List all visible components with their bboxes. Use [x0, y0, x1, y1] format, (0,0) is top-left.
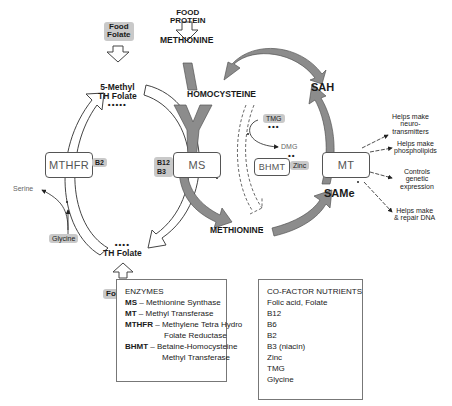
dmg-label: DMG [281, 143, 297, 150]
legend-enzyme-bhmt: BHMT – Betaine-Homocysteine [125, 341, 218, 352]
enzyme-bhmt-box: BHMT [254, 158, 290, 176]
legend-cofactor-item: B6 [267, 319, 354, 330]
legend-enzyme-mthfr: MTHFR – Methylene Tetra Hydro [125, 319, 218, 330]
ms-cofactor-chip: B12 B3 [154, 157, 173, 177]
output-phospholipids: Helps makephospholipids [394, 140, 437, 155]
legend-enzyme-ms: MS – Methionine Synthase [125, 297, 218, 308]
sah-to-homocysteine-arrow [224, 48, 326, 84]
methionine-bottom-label: METHIONINE [210, 226, 263, 235]
legend-cofactor-item: B2 [267, 330, 354, 341]
mthfr-cofactor-chip: B2 [92, 158, 107, 167]
folic-acid-arrow [113, 263, 133, 278]
legend-cofactor-item: TMG [267, 363, 354, 374]
legend-enzymes-title: ENZYMES [125, 286, 218, 297]
legend-cofactor-item: B3 (niacin) [267, 341, 354, 352]
legend-cofactor-item: Zinc [267, 352, 354, 363]
food-protein-label: FOOD PROTEIN [170, 9, 206, 26]
legend-enzymes: ENZYMES MS – Methionine Synthase MT – Me… [116, 279, 227, 382]
legend-cofactors-title: CO-FACTOR NUTRIENTS [267, 286, 354, 297]
legend-cofactor-nutrients: CO-FACTOR NUTRIENTS Folic acid, Folate B… [258, 279, 363, 400]
food-folate-chip: Food Folate [104, 22, 134, 41]
enzyme-mt-box: MT [322, 152, 370, 178]
methionine-top-label: METHIONINE [160, 36, 213, 45]
glycine-to-serine-arrow [42, 190, 68, 230]
th-folate-label: •••• TH Folate [103, 241, 142, 258]
enzyme-ms-box: MS [173, 152, 221, 178]
legend-cofactor-item: Folic acid, Folate [267, 297, 354, 308]
methionine-to-same-arrow [272, 190, 332, 236]
same-label: SAMe [324, 188, 355, 200]
legend-cofactor-item: Glycine [267, 374, 354, 385]
legend-cofactor-item: B12 [267, 308, 354, 319]
output-neurotransmitters: Helps makeneuro-transmitters [392, 113, 429, 135]
legend-enzyme-mt: MT – Methyl Transferase [125, 308, 218, 319]
food-folate-arrow [107, 46, 129, 62]
methionine-to-homocysteine-bar [183, 63, 197, 90]
output-repair-dna: Helps make& repair DNA [394, 207, 435, 222]
output-genetic-expression: Controlsgeneticexpression [400, 168, 434, 190]
enzyme-mthfr-box: MTHFR [45, 152, 93, 178]
methyl-th-folate-label: 5-Methyl TH Folate ••••• [98, 83, 137, 109]
bhmt-cofactor-chip: Zinc [290, 161, 309, 170]
glycine-chip: Glycine [49, 234, 78, 243]
homocysteine-label: HOMOCYSTEINE [187, 90, 256, 99]
serine-label: Serine [13, 185, 33, 192]
sah-label: SAH [311, 82, 334, 94]
tmg-label: TMG ••• [263, 114, 285, 132]
